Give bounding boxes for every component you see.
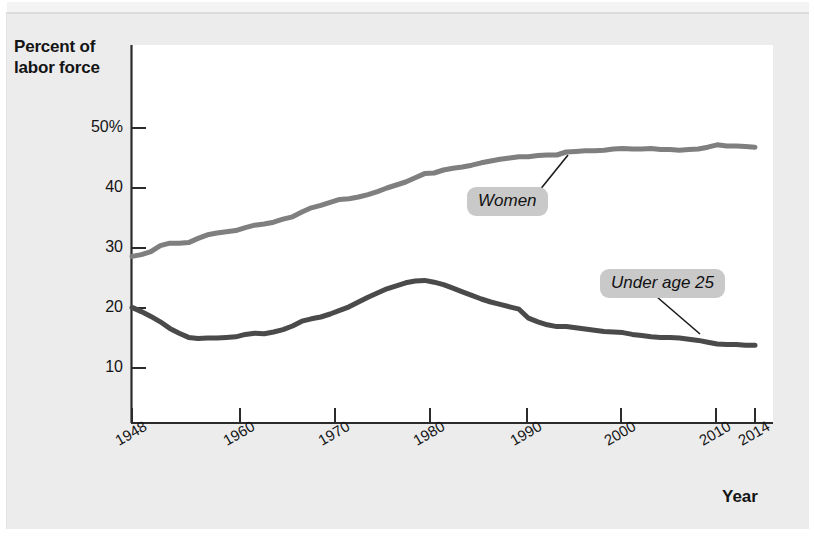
annotation-under-age-25: Under age 25 [600, 269, 725, 298]
x-tick-marks [132, 408, 755, 423]
chart-figure: Percent of labor force Year [0, 0, 814, 538]
annotation-women: Women [467, 187, 548, 216]
callout-leader-lines [535, 155, 700, 334]
y-tick-marks [131, 128, 146, 368]
series-lines [132, 145, 755, 345]
leader-line-under-age-25 [657, 297, 700, 334]
series-line-women [132, 145, 755, 257]
